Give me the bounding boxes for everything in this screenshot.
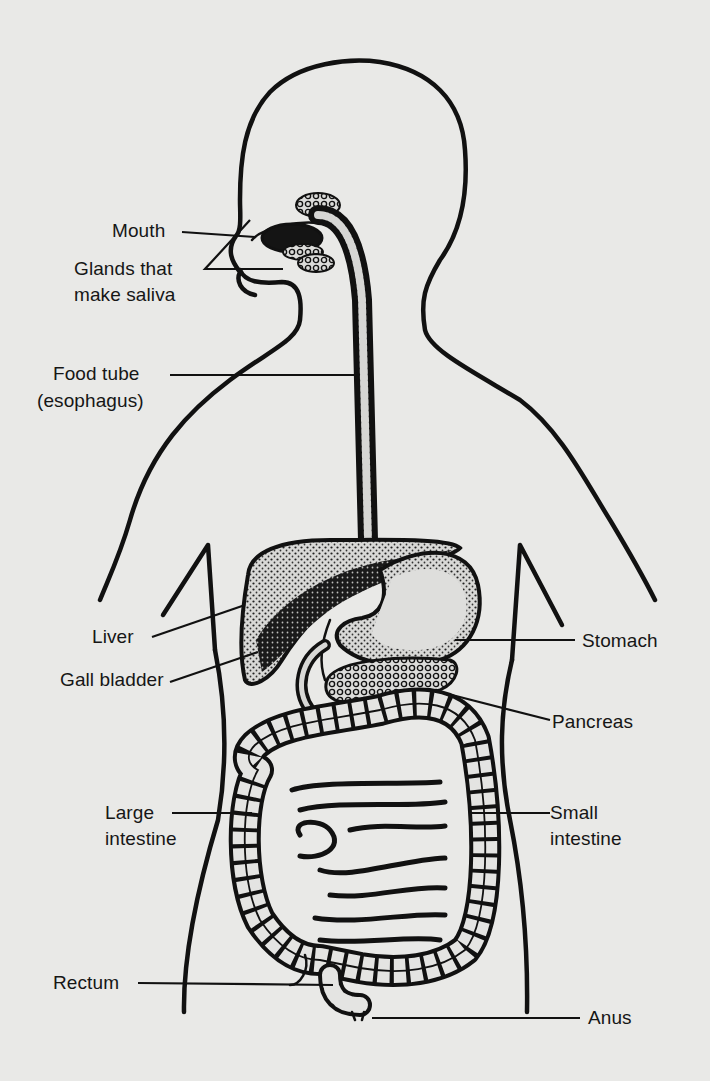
label-rectum: Rectum — [53, 971, 119, 994]
large-intestine — [245, 704, 485, 1020]
label-small-intestine-line1: Small — [550, 801, 598, 824]
label-food-tube-line1: Food tube — [53, 362, 139, 385]
label-liver: Liver — [92, 625, 134, 648]
digestive-system-diagram: Mouth Glands that make saliva Food tube … — [0, 0, 710, 1081]
leader-rectum — [138, 983, 333, 985]
label-anus: Anus — [588, 1006, 632, 1029]
label-pancreas: Pancreas — [552, 710, 633, 733]
label-mouth: Mouth — [112, 219, 165, 242]
label-glands-line2: make saliva — [74, 283, 175, 306]
label-small-intestine-line2: intestine — [550, 827, 622, 850]
submandibular-gland — [298, 254, 334, 272]
small-intestine — [292, 782, 445, 941]
label-food-tube-line2: (esophagus) — [37, 389, 144, 412]
label-gall-bladder: Gall bladder — [60, 668, 164, 691]
anatomy-illustration — [0, 0, 710, 1081]
label-glands-line1: Glands that — [74, 257, 172, 280]
label-large-intestine-line2: intestine — [105, 827, 177, 850]
label-large-intestine-line1: Large — [105, 801, 154, 824]
mouth-and-glands — [252, 193, 340, 272]
leader-mouth — [182, 232, 255, 237]
label-stomach: Stomach — [582, 629, 658, 652]
